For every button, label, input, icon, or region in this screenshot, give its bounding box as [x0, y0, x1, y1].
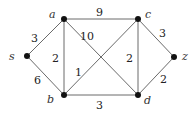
edge-weight-a-b: 2	[52, 52, 59, 65]
node-c	[135, 16, 141, 22]
edge-weight-b-c: 1	[75, 66, 82, 79]
node-s	[24, 53, 30, 59]
edge-weight-c-d: 2	[126, 52, 133, 65]
node-a	[61, 16, 67, 22]
edge-weight-b-d: 3	[96, 99, 103, 112]
node-label-a: a	[49, 8, 56, 21]
edge-weight-s-a: 3	[31, 32, 38, 45]
edge-weight-s-b: 6	[34, 74, 41, 87]
node-label-s: s	[9, 50, 15, 63]
node-label-b: b	[47, 93, 54, 106]
node-label-z: z	[181, 50, 188, 63]
node-b	[61, 92, 67, 98]
node-d	[135, 92, 141, 98]
edge-weight-d-z: 2	[160, 73, 167, 86]
edges-layer	[27, 19, 174, 95]
edge-weight-a-c: 9	[96, 6, 103, 19]
node-label-c: c	[145, 8, 151, 21]
node-z	[171, 54, 177, 60]
weighted-graph-diagram: 36291013232 sabcdz	[0, 0, 196, 114]
node-label-d: d	[144, 94, 151, 107]
edge-d-z	[138, 57, 174, 95]
graph-svg: 36291013232 sabcdz	[0, 0, 196, 114]
edge-c-z	[138, 19, 174, 57]
edge-weight-a-d: 10	[80, 30, 94, 43]
edge-weight-c-z: 3	[159, 27, 166, 40]
node-labels: sabcdz	[9, 8, 188, 107]
